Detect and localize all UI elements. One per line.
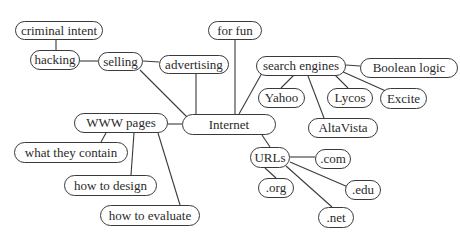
- edge-www-pages-to-how-to-design: [131, 133, 134, 175]
- edge-selling-to-advertising: [143, 61, 159, 62]
- edge-www-pages-to-what-they-contain: [101, 133, 106, 142]
- edge-www-pages-to-how-to-evaluate: [158, 133, 180, 205]
- node-www-pages[interactable]: WWW pages: [74, 113, 168, 133]
- node-selling[interactable]: selling: [98, 52, 143, 71]
- node-dot-org[interactable]: .org: [258, 178, 294, 198]
- edge-internet-to-urls: [262, 135, 270, 147]
- edge-internet-to-selling: [140, 70, 188, 118]
- edge-urls-to-dot-org: [265, 168, 276, 178]
- edge-search-engines-to-altavista: [308, 76, 324, 118]
- node-for-fun[interactable]: for fun: [208, 21, 262, 40]
- node-urls[interactable]: URLs: [250, 147, 290, 168]
- node-dot-edu[interactable]: .edu: [345, 180, 381, 200]
- node-yahoo[interactable]: Yahoo: [258, 88, 305, 108]
- node-dot-net[interactable]: .net: [318, 207, 354, 228]
- edge-search-engines-to-boolean-logic: [346, 65, 360, 66]
- edge-search-engines-to-lycos: [335, 75, 348, 88]
- node-dot-com[interactable]: .com: [315, 149, 351, 169]
- node-altavista[interactable]: AltaVista: [308, 118, 378, 138]
- node-what-they-contain[interactable]: what they contain: [14, 142, 128, 163]
- node-hacking[interactable]: hacking: [30, 50, 80, 70]
- node-search-engines[interactable]: search engines: [256, 56, 346, 76]
- node-advertising[interactable]: advertising: [159, 55, 229, 74]
- node-how-to-evaluate[interactable]: how to evaluate: [100, 205, 200, 226]
- node-lycos[interactable]: Lycos: [327, 88, 373, 108]
- node-criminal-intent[interactable]: criminal intent: [15, 21, 103, 40]
- node-internet[interactable]: Internet: [182, 114, 276, 135]
- node-how-to-design[interactable]: how to design: [64, 175, 157, 196]
- node-boolean-logic[interactable]: Boolean logic: [360, 58, 458, 78]
- edge-search-engines-to-yahoo: [281, 75, 294, 88]
- mind-map: Internet for fun advertising selling hac…: [0, 0, 460, 245]
- node-excite[interactable]: Excite: [380, 88, 427, 109]
